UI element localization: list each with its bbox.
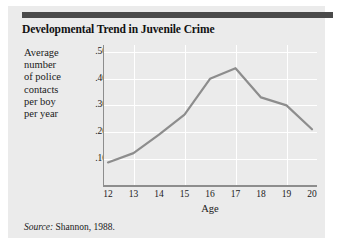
plot-region xyxy=(103,45,317,186)
y-axis-label-line: contacts xyxy=(24,84,84,96)
figure-card: Developmental Trend in Juvenile Crime Av… xyxy=(8,6,325,238)
x-axis-tick-label: 18 xyxy=(250,189,272,199)
y-axis-label: Average number of police contacts per bo… xyxy=(24,47,84,120)
x-axis-tick-label: 20 xyxy=(301,189,323,199)
y-axis-label-line: number xyxy=(24,59,84,71)
x-axis-tick-label: 17 xyxy=(225,189,247,199)
y-axis-label-line: of police xyxy=(24,71,84,83)
figure-top-bar xyxy=(22,12,333,18)
chart-area: .50.40.30.20.10 121314151617181920 Age xyxy=(87,45,327,195)
x-axis-tick-label: 16 xyxy=(199,189,221,199)
data-line-series xyxy=(103,45,317,186)
x-axis-tick-label: 19 xyxy=(276,189,298,199)
figure-title: Developmental Trend in Juvenile Crime xyxy=(22,23,214,35)
source-prefix: Source: xyxy=(24,222,53,232)
x-axis-tick-label: 15 xyxy=(174,189,196,199)
y-axis-label-line: Average xyxy=(24,47,84,59)
source-text: Shannon, 1988. xyxy=(56,222,115,232)
x-axis-tick-label: 13 xyxy=(123,189,145,199)
x-axis-tick-label: 14 xyxy=(148,189,170,199)
figure-source: Source: Shannon, 1988. xyxy=(24,222,115,232)
y-axis-label-line: per boy xyxy=(24,96,84,108)
x-axis-tick-label: 12 xyxy=(97,189,119,199)
y-axis-label-line: per year xyxy=(24,108,84,120)
x-axis-title: Age xyxy=(103,203,317,214)
